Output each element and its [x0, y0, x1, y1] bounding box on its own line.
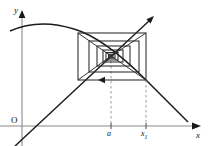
cobweb-diagonals-group: [78, 33, 146, 80]
x-axis-label: x: [196, 131, 200, 140]
y-axis-arrowhead: [19, 10, 26, 18]
identity-line-y-equals-x: [14, 20, 150, 146]
axes-group: [0, 10, 201, 146]
cobweb-diagonal-tl: [78, 33, 111, 56]
x-axis-arrowhead: [192, 122, 201, 129]
origin-label: O: [11, 116, 18, 125]
cobweb-diagonal-bl: [78, 56, 111, 80]
y-axis-label: y: [14, 6, 18, 15]
left-arrowhead-icon: [98, 77, 105, 83]
cobweb-direction-arrow: [98, 77, 105, 83]
cobweb-diagonal-tr: [111, 33, 146, 56]
cobweb-diagram-figure: y O x a x1: [0, 0, 210, 146]
cobweb-diagonal-br: [111, 56, 146, 80]
function-curve: [10, 24, 188, 122]
fixed-point-label: a: [107, 130, 111, 138]
start-point-label-subscript: 1: [145, 134, 148, 140]
start-point-label: x1: [141, 130, 148, 140]
diagram-canvas: [0, 0, 210, 146]
